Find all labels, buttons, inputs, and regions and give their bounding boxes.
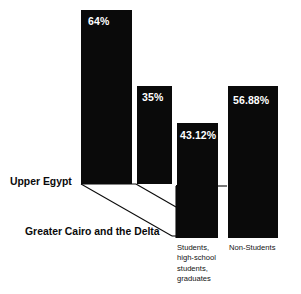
bar-chart: 64% 35% 43.12% 56.88% Upper Egypt Greate… xyxy=(0,0,301,294)
series-label-greater-cairo: Greater Cairo and the Delta xyxy=(25,227,160,237)
bar-value-43-12: 43.12% xyxy=(180,130,216,141)
series-label-upper-egypt: Upper Egypt xyxy=(10,177,72,187)
bar-upper-egypt-students xyxy=(81,10,132,184)
bar-value-56-88: 56.88% xyxy=(233,95,269,106)
bar-value-64: 64% xyxy=(88,16,109,27)
bar-value-35: 35% xyxy=(142,92,163,103)
category-label-non-students: Non-Students xyxy=(229,243,289,253)
category-label-students: Students, high-school students, graduate… xyxy=(177,243,227,285)
bar-greater-cairo-non-students xyxy=(228,86,278,238)
